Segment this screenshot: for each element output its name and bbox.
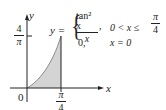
function-lhs: y = [50, 25, 65, 36]
case1-condition: 0 < x ≤ [110, 22, 139, 33]
y-tick-numerator: 4 [17, 24, 22, 34]
y-axis-label: y [29, 10, 34, 21]
y-tick-label: 4 π [14, 24, 24, 47]
x-axis-label: x [106, 83, 111, 94]
x-axis-arrow-icon [98, 86, 104, 90]
x-tick-label: π 4 [56, 90, 66, 110]
shaded-area [27, 36, 61, 88]
x-tick-denominator: 4 [59, 103, 64, 110]
bound-numerator: π [153, 12, 158, 22]
case1-comma: , [99, 20, 102, 31]
origin-label: 0 [18, 92, 24, 103]
case1-numerator: tan² x [76, 11, 98, 31]
case1-condition-bound: π 4 [151, 12, 160, 35]
case2-condition: x = 0 [110, 37, 131, 48]
x-tick-numerator: π [58, 90, 63, 100]
y-tick-denominator: π [16, 37, 21, 47]
bound-denominator: 4 [153, 25, 158, 35]
case2-expression: 0, [78, 37, 86, 48]
